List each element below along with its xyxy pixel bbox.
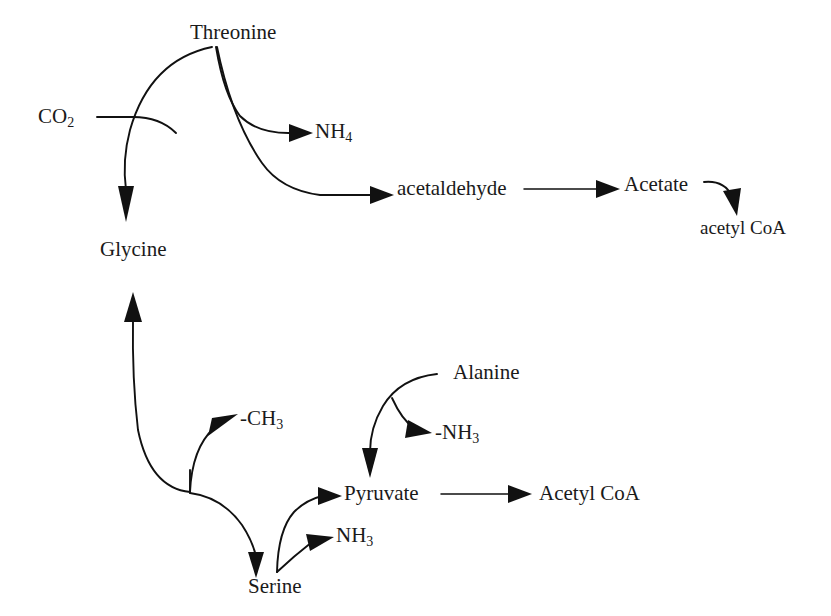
label-nh4-main: NH xyxy=(315,119,345,143)
edge-junction-to-serine xyxy=(190,493,256,556)
label-methyl: -CH3 xyxy=(240,406,283,432)
label-alanine: Alanine xyxy=(453,360,519,384)
arrowhead-pyruvate-from-alanine xyxy=(362,448,378,478)
label-minus-nh3-main: -NH xyxy=(435,420,472,444)
label-acetaldehyde: acetaldehyde xyxy=(397,176,507,200)
arrowhead-acetyl-coa-lower xyxy=(723,188,741,216)
pathway-canvas: Threonine CO2 Glycine NH4 acetaldehyde A… xyxy=(0,0,831,616)
label-co2-main: CO xyxy=(38,104,67,128)
label-acetate: Acetate xyxy=(624,172,688,196)
label-methyl-subscript: 3 xyxy=(276,417,283,432)
arrowhead-acetyl-coa-right xyxy=(508,485,532,503)
label-acetyl-coa-lower: acetyl CoA xyxy=(700,217,786,238)
arrowhead-nh4 xyxy=(289,124,313,142)
edge-serine-to-methyl xyxy=(190,428,214,492)
edge-threonine-to-glycine xyxy=(125,47,212,190)
arrowhead-acetaldehyde xyxy=(370,186,394,204)
label-pyruvate: Pyruvate xyxy=(344,481,419,505)
arrowhead-pyruvate-from-serine xyxy=(318,487,342,505)
label-nh3-serine-main: NH xyxy=(336,523,366,547)
label-acetyl-coa-right: Acetyl CoA xyxy=(539,481,641,505)
arrowhead-glycine-from-serine xyxy=(124,292,142,322)
label-methyl-main: -CH xyxy=(240,406,276,430)
label-co2-subscript: 2 xyxy=(67,115,74,130)
label-co2: CO2 xyxy=(38,104,74,130)
arrowhead-acetate xyxy=(596,180,620,198)
edge-alanine-to-pyruvate xyxy=(370,374,437,452)
label-nh4: NH4 xyxy=(315,119,352,145)
label-nh3-serine: NH3 xyxy=(336,523,373,549)
arrowhead-nh3 xyxy=(306,534,334,551)
label-nh4-subscript: 4 xyxy=(345,130,352,145)
edge-threonine-to-acetaldehyde xyxy=(217,47,372,195)
edge-serine-to-pyruvate xyxy=(277,496,322,572)
label-serine: Serine xyxy=(248,574,302,598)
label-glycine: Glycine xyxy=(100,237,166,261)
arrowhead-glycine xyxy=(118,186,134,222)
label-threonine: Threonine xyxy=(190,20,276,44)
edge-serine-to-glycine xyxy=(133,318,190,492)
label-nh3-serine-subscript: 3 xyxy=(366,534,373,549)
arrowhead-minus-nh3 xyxy=(405,420,432,438)
label-minus-nh3-subscript: 3 xyxy=(472,431,479,446)
pathway-diagram: Threonine CO2 Glycine NH4 acetaldehyde A… xyxy=(0,0,831,616)
label-minus-nh3: -NH3 xyxy=(435,420,479,446)
edge-serine-to-nh3 xyxy=(277,542,312,572)
arrowhead-methyl xyxy=(208,414,238,436)
edge-co2-to-glycine xyxy=(97,117,176,133)
